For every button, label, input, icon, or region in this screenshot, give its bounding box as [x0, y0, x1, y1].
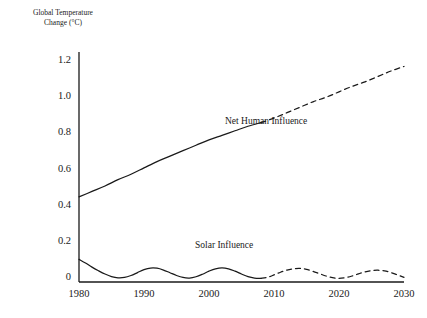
x-tick-label: 1990: [121, 288, 167, 299]
y-tick-label: 1.0: [31, 90, 71, 101]
net-human-influence-observed-line: [79, 123, 261, 197]
net-human-influence-projected-line: [261, 66, 404, 122]
net-human-influence-label: Net Human Influence: [225, 116, 307, 126]
x-tick-label: 1980: [56, 288, 102, 299]
solar-influence-projected-line: [261, 268, 404, 278]
solar-influence-label: Solar Influence: [195, 240, 253, 250]
x-tick-label: 2010: [251, 288, 297, 299]
y-axis-title: Global Temperature Change (°C): [8, 8, 118, 28]
y-tick-label: 1.2: [31, 54, 71, 65]
x-tick-label: 2000: [186, 288, 232, 299]
y-tick-label: 0.4: [31, 199, 71, 210]
y-tick-label: 0.6: [31, 163, 71, 174]
y-tick-label: 0.8: [31, 126, 71, 137]
x-tick-label: 2030: [381, 288, 427, 299]
y-tick-label: 0.2: [31, 235, 71, 246]
temperature-influence-chart: Global Temperature Change (°C) 00.20.40.…: [0, 0, 427, 318]
x-tick-label: 2020: [316, 288, 362, 299]
solar-influence-observed-line: [79, 259, 261, 278]
y-tick-label: 0: [31, 271, 71, 282]
chart-plot-area: [0, 0, 427, 318]
